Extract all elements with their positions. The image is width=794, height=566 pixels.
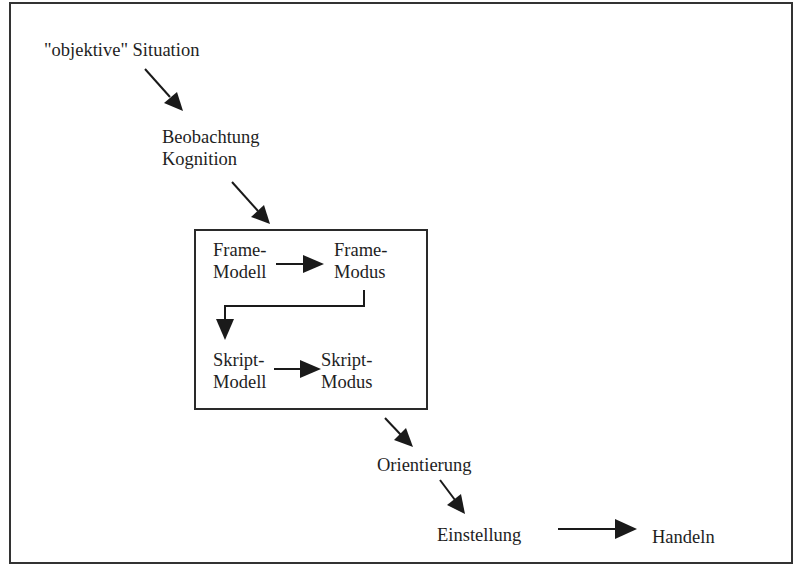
node-attitude: Einstellung [437,524,521,546]
node-script-model: Skript- Modell [213,349,266,393]
node-script-mode: Skript- Modus [321,349,372,393]
node-cognition-label: Kognition [162,148,260,170]
node-attitude-label: Einstellung [437,524,521,546]
node-action-label: Handeln [652,526,715,548]
node-orientation-label: Orientierung [377,454,472,476]
node-frame-mode: Frame- Modus [334,239,387,283]
node-script-mode-line1: Skript- [321,349,372,371]
node-script-model-line2: Modell [213,371,266,393]
node-observation-cognition: Beobachtung Kognition [162,126,260,170]
node-observation-label: Beobachtung [162,126,260,148]
node-frame-model-line1: Frame- [213,239,266,261]
node-objective-situation-label: "objektive" Situation [44,39,199,61]
node-frame-model-line2: Modell [213,261,266,283]
node-action: Handeln [652,526,715,548]
node-frame-mode-line1: Frame- [334,239,387,261]
node-objective-situation: "objektive" Situation [44,39,199,61]
node-orientation: Orientierung [377,454,472,476]
node-frame-model: Frame- Modell [213,239,266,283]
node-frame-mode-line2: Modus [334,261,387,283]
node-script-mode-line2: Modus [321,371,372,393]
node-script-model-line1: Skript- [213,349,266,371]
